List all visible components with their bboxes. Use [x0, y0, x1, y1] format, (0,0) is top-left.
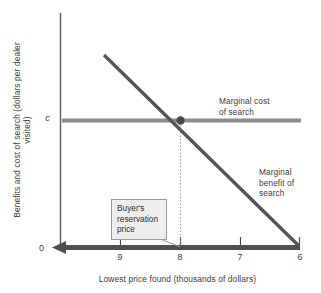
x-tick-label-9: 9 — [110, 252, 130, 262]
marginal-cost-series-label: Marginal cost of search — [219, 96, 270, 117]
origin-label: 0 — [28, 243, 44, 253]
y-axis-value-c-label: c — [34, 112, 50, 123]
reservation-price-callout: Buyer's reservation price — [111, 199, 167, 240]
intersection-point-marker — [176, 116, 184, 124]
x-tick-label-8: 8 — [170, 252, 190, 262]
chart-canvas — [0, 0, 321, 293]
y-axis-label: Benefits and cost of search (dollars per… — [12, 30, 32, 230]
x-axis-arrowhead-icon — [52, 241, 66, 254]
x-tick-label-7: 7 — [230, 252, 250, 262]
x-tick-label-6: 6 — [290, 252, 310, 262]
search-theory-chart: Benefits and cost of search (dollars per… — [0, 0, 321, 293]
x-axis-label: Lowest price found (thousands of dollars… — [40, 274, 315, 284]
marginal-benefit-series-label: Marginal benefit of search — [259, 167, 294, 199]
